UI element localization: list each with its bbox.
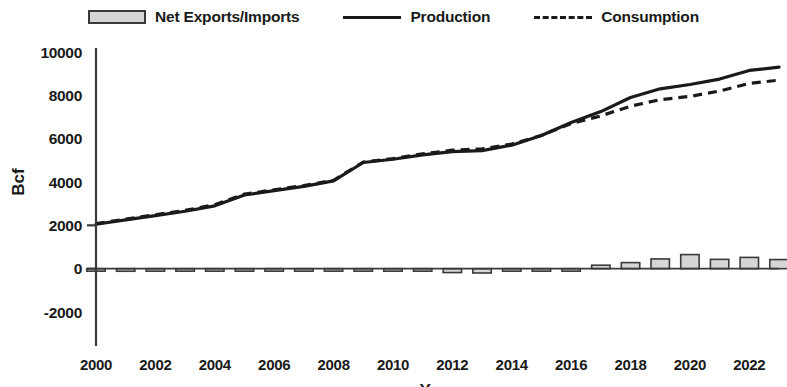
x-tick-label-2018: 2018 <box>614 356 646 373</box>
y-tick-label-4000: 4000 <box>49 174 82 191</box>
x-tick-label-2010: 2010 <box>377 356 409 373</box>
series-line-consumption <box>96 80 779 223</box>
dashed-line-swatch-icon <box>534 16 592 19</box>
bar-2019 <box>651 259 669 269</box>
legend-item-consumption: Consumption <box>534 8 699 26</box>
chart-svg: 1000080006000400020000-2000 200020022004… <box>0 34 787 387</box>
gas-production-consumption-chart: Net Exports/Imports Production Consumpti… <box>0 0 787 387</box>
chart-legend: Net Exports/Imports Production Consumpti… <box>0 2 787 32</box>
y-tick-label-6000: 6000 <box>49 130 82 147</box>
x-tick-label-2014: 2014 <box>496 356 529 373</box>
bars-layer <box>87 255 787 273</box>
x-tick-labels: 2000200220042006200820102012201420162018… <box>80 356 765 373</box>
legend-item-net-exports-imports: Net Exports/Imports <box>88 8 299 26</box>
y-tick-labels: 1000080006000400020000-2000 <box>40 44 82 321</box>
bar-swatch-icon <box>88 10 146 24</box>
x-tick-label-2004: 2004 <box>199 356 232 373</box>
x-tick-label-2000: 2000 <box>80 356 112 373</box>
legend-item-production: Production <box>343 8 490 26</box>
series-line-production <box>96 67 779 224</box>
axis-layer <box>87 48 96 346</box>
x-tick-label-2002: 2002 <box>139 356 171 373</box>
y-tick-label-0: 0 <box>74 260 82 277</box>
x-tick-label-2016: 2016 <box>555 356 587 373</box>
x-tick-label-2022: 2022 <box>733 356 765 373</box>
x-tick-label-2006: 2006 <box>258 356 290 373</box>
bar-2020 <box>681 255 699 269</box>
bar-2022 <box>740 257 758 268</box>
legend-label-net-exports-imports: Net Exports/Imports <box>155 8 299 26</box>
y-tick-label-2000: 2000 <box>49 217 82 234</box>
x-tick-label-2012: 2012 <box>436 356 468 373</box>
bar-2021 <box>710 259 728 268</box>
y-tick-label-10000: 10000 <box>40 44 82 61</box>
x-tick-label-2020: 2020 <box>674 356 706 373</box>
bar-2023 <box>770 260 787 269</box>
y-tick-label--2000: -2000 <box>44 304 82 321</box>
x-tick-label-2008: 2008 <box>318 356 350 373</box>
x-axis-title: Year <box>420 381 456 387</box>
bar-2018 <box>621 263 639 269</box>
legend-label-production: Production <box>410 8 490 26</box>
legend-label-consumption: Consumption <box>601 8 699 26</box>
y-axis-title: Bcf <box>9 168 28 196</box>
solid-line-swatch-icon <box>343 16 401 19</box>
plot-area: 1000080006000400020000-2000 200020022004… <box>0 34 787 387</box>
y-tick-label-8000: 8000 <box>49 87 82 104</box>
series-layer <box>96 67 779 224</box>
